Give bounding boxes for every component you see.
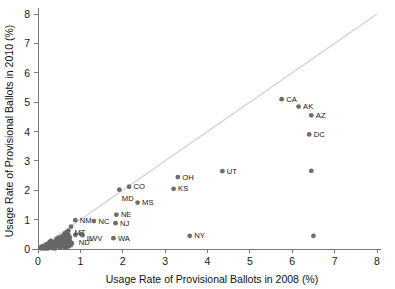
x-axis-tick-label: 4 bbox=[205, 255, 211, 267]
data-point bbox=[67, 235, 72, 240]
reference-line-group bbox=[38, 14, 377, 249]
data-point-label-nj: NJ bbox=[120, 219, 129, 228]
data-point bbox=[43, 246, 48, 251]
x-axis-tick-label: 3 bbox=[162, 255, 168, 267]
data-point-label-dc: DC bbox=[314, 130, 325, 139]
data-point-label-az: AZ bbox=[316, 111, 326, 120]
point-labels-group: CAAKAZDCUTOHKSCOMDMSNENJNYWANMNCMTNDILWV bbox=[75, 95, 326, 248]
y-axis-tick-label: 2 bbox=[24, 184, 30, 196]
data-point-ms bbox=[135, 200, 140, 205]
data-point-label-ak: AK bbox=[303, 102, 313, 111]
data-point-label-ca: CA bbox=[286, 95, 297, 104]
y-axis-tick-label: 1 bbox=[24, 214, 30, 226]
data-point-label-nm: NM bbox=[80, 216, 92, 225]
data-point bbox=[65, 243, 70, 248]
data-point-label-md: MD bbox=[122, 194, 134, 203]
data-point-label-nc: NC bbox=[98, 217, 109, 226]
x-axis-tick-label: 8 bbox=[374, 255, 380, 267]
scatter-plot-figure: 012345678012345678 CAAKAZDCUTOHKSCOMDMSN… bbox=[0, 0, 395, 289]
data-point-nm bbox=[73, 218, 78, 223]
data-point-label-ny: NY bbox=[194, 231, 205, 240]
data-point-ne bbox=[114, 212, 119, 217]
data-point-mt bbox=[69, 224, 74, 229]
data-point-label-co: CO bbox=[134, 182, 145, 191]
y-axis-tick-label: 4 bbox=[24, 126, 30, 138]
data-point-ak bbox=[296, 104, 301, 109]
data-point-ca bbox=[279, 97, 284, 102]
data-point-nj bbox=[113, 221, 118, 226]
data-point-co bbox=[127, 184, 132, 189]
data-point-wa bbox=[111, 236, 116, 241]
x-axis-tick-label: 5 bbox=[247, 255, 253, 267]
x-axis-tick-label: 6 bbox=[289, 255, 295, 267]
data-point-label-ks: KS bbox=[178, 184, 188, 193]
data-point bbox=[68, 239, 73, 244]
data-point bbox=[309, 168, 314, 173]
data-point bbox=[311, 233, 316, 238]
data-point-nc bbox=[92, 219, 97, 224]
y-axis-tick-label: 8 bbox=[24, 8, 30, 20]
data-point-ut bbox=[220, 169, 225, 174]
data-point-label-wa: WA bbox=[118, 234, 131, 243]
data-point-label-wv: WV bbox=[90, 234, 103, 243]
data-point-md bbox=[117, 187, 122, 192]
plot-canvas: 012345678012345678 CAAKAZDCUTOHKSCOMDMSN… bbox=[0, 0, 395, 289]
data-point bbox=[38, 245, 43, 250]
x-axis-title: Usage Rate of Provisional Ballots in 200… bbox=[106, 273, 318, 285]
data-point bbox=[66, 228, 71, 233]
x-axis-tick-label: 0 bbox=[35, 255, 41, 267]
x-axis-tick-label: 1 bbox=[77, 255, 83, 267]
data-point-label-mt: MT bbox=[75, 228, 86, 237]
y-axis-tick-label: 7 bbox=[24, 37, 30, 49]
y-axis-title: Usage Rate of Provisional Ballots in 201… bbox=[3, 25, 15, 237]
y-axis-tick-label: 6 bbox=[24, 67, 30, 79]
data-point-label-oh: OH bbox=[182, 173, 193, 182]
x-axis-tick-label: 7 bbox=[332, 255, 338, 267]
y-axis-tick-label: 0 bbox=[24, 243, 30, 255]
data-point-dc bbox=[307, 132, 312, 137]
data-point-label-ut: UT bbox=[227, 167, 237, 176]
data-point bbox=[53, 246, 58, 251]
x-axis-tick-label: 2 bbox=[120, 255, 126, 267]
data-point bbox=[54, 237, 59, 242]
y-axis-tick-label: 5 bbox=[24, 96, 30, 108]
data-point-oh bbox=[175, 175, 180, 180]
data-point-ny bbox=[187, 233, 192, 238]
identity-reference-line bbox=[38, 14, 377, 249]
y-axis-tick-label: 3 bbox=[24, 155, 30, 167]
data-point-label-ms: MS bbox=[142, 198, 153, 207]
data-point-az bbox=[309, 113, 314, 118]
data-point-ks bbox=[171, 186, 176, 191]
